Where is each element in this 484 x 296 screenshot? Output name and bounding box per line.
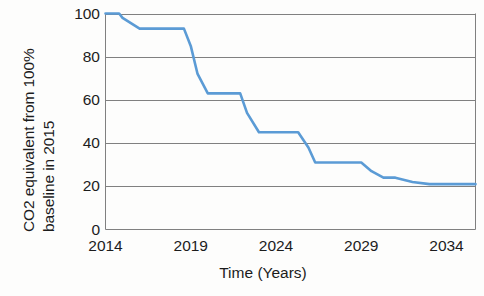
data-series-group <box>106 14 476 185</box>
data-line <box>106 14 476 185</box>
x-tick-label: 2014 <box>88 238 122 254</box>
x-axis-title-text: Time (Years) <box>219 264 307 281</box>
x-tick-label: 2029 <box>344 238 378 254</box>
x-tick-label: 2034 <box>429 238 463 254</box>
x-axis-title: Time (Years) <box>0 264 484 282</box>
chart-figure: CO2 equivalent from 100% baseline in 201… <box>0 0 484 296</box>
x-axis-tick-labels: 20142019202420292034 <box>0 238 484 262</box>
gridlines <box>106 15 476 187</box>
x-tick-label: 2024 <box>259 238 293 254</box>
x-tick-label: 2019 <box>174 238 208 254</box>
axis-lines <box>106 14 476 230</box>
